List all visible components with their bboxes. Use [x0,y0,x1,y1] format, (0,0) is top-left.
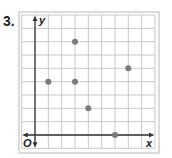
x-axis-label: x [145,137,153,149]
data-point [72,79,78,85]
data-point [125,65,131,71]
origin-label: O [23,137,32,149]
plot-frame [19,12,159,153]
data-point [72,39,78,45]
data-point [85,105,91,111]
data-point [45,79,51,85]
scatter-plot: yxO [0,0,172,158]
y-axis-label: y [38,14,46,26]
data-point [112,132,118,138]
y-axis-arrow-up-icon [33,16,38,21]
y-axis-arrow-down-icon [33,142,38,147]
